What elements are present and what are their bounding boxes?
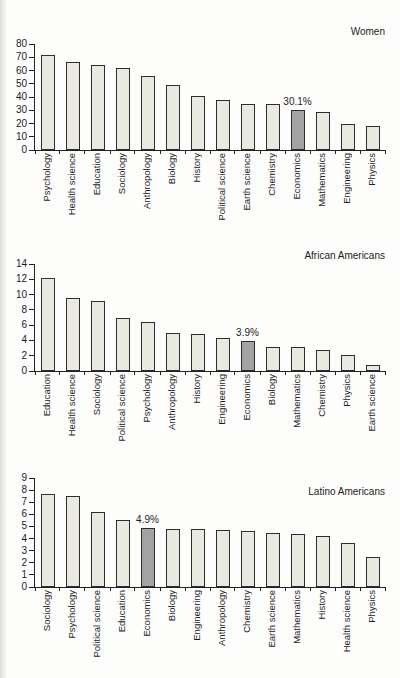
- bar-slot: [310, 478, 335, 587]
- bar-health-science: [66, 62, 80, 150]
- x-category-label: Mathematics: [291, 590, 302, 644]
- x-category-slot: Physics: [359, 590, 384, 678]
- y-axis-tick: [29, 340, 34, 341]
- x-category-slot: Education: [84, 153, 109, 239]
- x-category-slot: Engineering: [184, 590, 209, 678]
- bar-economics: [291, 110, 305, 150]
- bar-slot: [160, 264, 185, 371]
- plot-area-latino-americans: 01234567894.9%: [34, 478, 385, 588]
- x-category-label: Biology: [166, 153, 177, 184]
- bar-slot: [210, 44, 235, 150]
- bar-slot: [185, 44, 210, 150]
- y-tick-label: 8: [21, 305, 27, 315]
- x-category-label: Sociology: [116, 153, 127, 194]
- bar-economics: [241, 341, 255, 371]
- bar-slot: [185, 264, 210, 371]
- y-tick-label: 9: [21, 473, 27, 483]
- y-tick-label: 10: [16, 132, 27, 142]
- bar-sociology: [91, 301, 105, 371]
- bar-biology: [266, 347, 280, 371]
- x-category-label: Economics: [141, 590, 152, 636]
- y-axis-tick: [29, 538, 34, 539]
- plot-area-african-americans: 024681012143.9%: [34, 264, 385, 372]
- y-tick-label: 2: [21, 351, 27, 361]
- x-category-label: Earth science: [241, 153, 252, 211]
- bar-slot: [35, 44, 60, 150]
- y-axis-tick: [29, 502, 34, 503]
- y-axis-tick: [29, 562, 34, 563]
- x-category-label: Engineering: [191, 590, 202, 641]
- x-category-label: Psychology: [141, 374, 152, 423]
- y-tick-label: 60: [16, 66, 27, 76]
- x-category-label: Anthropology: [216, 590, 227, 646]
- x-category-label: Sociology: [91, 374, 102, 415]
- bar-slot: [160, 44, 185, 150]
- x-category-label: Sociology: [41, 590, 52, 631]
- y-tick-label: 4: [21, 335, 27, 345]
- x-category-slot: Earth science: [234, 153, 259, 239]
- y-axis-tick: [29, 83, 34, 84]
- x-category-slot: Anthropology: [209, 590, 234, 678]
- bar-sociology: [116, 68, 130, 150]
- x-category-slot: Chemistry: [259, 153, 284, 239]
- x-category-label: History: [191, 153, 202, 183]
- bar-earth-science: [266, 533, 280, 588]
- y-axis-tick: [29, 70, 34, 71]
- x-category-slot: History: [184, 153, 209, 239]
- y-tick-label: 6: [21, 320, 27, 330]
- bar-slot: [360, 264, 385, 371]
- plot-area-women: 0102030405060708030.1%: [34, 44, 385, 151]
- y-tick-label: 30: [16, 105, 27, 115]
- x-category-slot: Political science: [84, 590, 109, 678]
- bar-earth-science: [241, 104, 255, 150]
- bar-slot: [235, 44, 260, 150]
- y-axis-tick: [29, 574, 34, 575]
- bar-slot: [235, 478, 260, 587]
- y-axis-tick: [29, 550, 34, 551]
- bar-chemistry: [241, 531, 255, 587]
- bar-physics: [341, 355, 355, 371]
- y-axis-tick: [29, 526, 34, 527]
- y-axis-tick: [29, 150, 34, 151]
- x-category-label: Earth science: [266, 590, 277, 648]
- y-tick-label: 80: [16, 39, 27, 49]
- y-tick-label: 2: [21, 558, 27, 568]
- bar-psychology: [66, 496, 80, 587]
- y-tick-label: 3: [21, 546, 27, 556]
- x-category-slot: Sociology: [84, 374, 109, 460]
- bar-slot: [110, 264, 135, 371]
- x-category-label: Chemistry: [316, 374, 327, 417]
- x-category-label: Chemistry: [241, 590, 252, 633]
- x-category-slot: Health science: [334, 590, 359, 678]
- scanned-figure-page: Women 0102030405060708030.1% PsychologyH…: [0, 0, 400, 678]
- bar-political-science: [91, 512, 105, 587]
- x-category-label: Physics: [341, 374, 352, 407]
- y-axis-tick: [29, 136, 34, 137]
- x-category-slot: Chemistry: [309, 374, 334, 460]
- bar-slot: [110, 478, 135, 587]
- x-category-slot: Biology: [159, 590, 184, 678]
- bar-slot: [310, 264, 335, 371]
- bar-engineering: [341, 124, 355, 150]
- y-tick-label: 7: [21, 497, 27, 507]
- bar-slot: [160, 478, 185, 587]
- x-category-label: Biology: [266, 374, 277, 405]
- x-category-slot: Political science: [209, 153, 234, 239]
- x-category-slot: History: [184, 374, 209, 460]
- y-tick-label: 4: [21, 534, 27, 544]
- chart-title-women: Women: [351, 26, 385, 38]
- bar-anthropology: [166, 333, 180, 371]
- y-tick-label: 0: [21, 582, 27, 592]
- y-axis-tick: [29, 325, 34, 326]
- x-category-slot: Health science: [59, 374, 84, 460]
- bar-political-science: [216, 100, 230, 150]
- x-category-label: Economics: [291, 153, 302, 199]
- x-category-label: Earth science: [366, 374, 377, 432]
- bar-slot: [35, 478, 60, 587]
- bar-education: [116, 520, 130, 587]
- y-tick-label: 1: [21, 570, 27, 580]
- x-category-slot: Political science: [109, 374, 134, 460]
- x-category-slot: Physics: [334, 374, 359, 460]
- x-category-slot: Earth science: [259, 590, 284, 678]
- bar-slot: [60, 44, 85, 150]
